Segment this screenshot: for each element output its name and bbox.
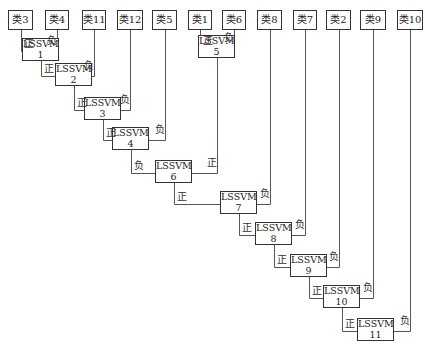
lssvm-number: 6 bbox=[156, 172, 191, 183]
class-node-c6: 类6 bbox=[222, 10, 246, 30]
class-node-c9: 类9 bbox=[360, 10, 386, 30]
positive-label: 正 bbox=[207, 158, 217, 168]
class-node-c5: 类5 bbox=[152, 10, 177, 30]
negative-label: 负 bbox=[224, 33, 234, 43]
negative-label: 负 bbox=[47, 36, 57, 46]
class-node-c10: 类10 bbox=[397, 10, 423, 30]
lssvm-node-6: LSSVM6 bbox=[155, 160, 192, 183]
lssvm-number: 10 bbox=[324, 297, 359, 308]
lssvm-name: LSSVM bbox=[358, 319, 393, 330]
lssvm-name: LSSVM bbox=[156, 161, 191, 172]
class-node-c3: 类3 bbox=[8, 10, 33, 30]
lssvm-name: LSSVM bbox=[324, 286, 359, 297]
lssvm-node-3: LSSVM3 bbox=[84, 97, 121, 120]
positive-label: 正 bbox=[77, 98, 87, 108]
positive-label: 正 bbox=[44, 64, 54, 74]
lssvm-node-4: LSSVM4 bbox=[112, 127, 149, 150]
negative-label: 负 bbox=[120, 95, 130, 105]
lssvm-node-7: LSSVM7 bbox=[220, 191, 257, 214]
class-node-c11: 类11 bbox=[82, 10, 106, 30]
positive-label: 正 bbox=[242, 223, 252, 233]
negative-label: 负 bbox=[295, 220, 305, 230]
lssvm-number: 4 bbox=[113, 139, 148, 150]
lssvm-name: LSSVM bbox=[85, 98, 120, 109]
lssvm-number: 8 bbox=[256, 234, 291, 245]
positive-label: 正 bbox=[203, 36, 213, 46]
class-node-c1: 类1 bbox=[188, 10, 212, 30]
negative-label: 负 bbox=[134, 161, 144, 171]
class-node-c4: 类4 bbox=[45, 10, 69, 30]
negative-label: 负 bbox=[260, 189, 270, 199]
positive-label: 正 bbox=[277, 255, 287, 265]
positive-label: 正 bbox=[345, 319, 355, 329]
class-node-c2: 类2 bbox=[326, 10, 351, 30]
negative-label: 负 bbox=[84, 61, 94, 71]
negative-label: 负 bbox=[400, 316, 410, 326]
lssvm-number: 9 bbox=[291, 266, 326, 277]
positive-label: 正 bbox=[106, 128, 116, 138]
negative-label: 负 bbox=[329, 252, 339, 262]
lssvm-name: LSSVM bbox=[221, 192, 256, 203]
positive-label: 正 bbox=[24, 39, 34, 49]
lssvm-number: 11 bbox=[358, 330, 393, 341]
positive-label: 正 bbox=[177, 192, 187, 202]
negative-label: 负 bbox=[155, 125, 165, 135]
positive-label: 正 bbox=[312, 286, 322, 296]
lssvm-number: 3 bbox=[85, 109, 120, 120]
lssvm-number: 1 bbox=[23, 50, 58, 61]
negative-label: 负 bbox=[363, 283, 373, 293]
lssvm-node-10: LSSVM10 bbox=[323, 285, 360, 308]
class-node-c12: 类12 bbox=[117, 10, 143, 30]
lssvm-number: 7 bbox=[221, 203, 256, 214]
lssvm-node-8: LSSVM8 bbox=[255, 222, 292, 245]
lssvm-name: LSSVM bbox=[113, 128, 148, 139]
lssvm-name: LSSVM bbox=[291, 255, 326, 266]
lssvm-number: 2 bbox=[56, 75, 91, 86]
class-node-c8: 类8 bbox=[257, 10, 282, 30]
lssvm-node-9: LSSVM9 bbox=[290, 254, 327, 277]
lssvm-number: 5 bbox=[199, 47, 234, 58]
lssvm-node-11: LSSVM11 bbox=[357, 318, 394, 341]
lssvm-name: LSSVM bbox=[256, 223, 291, 234]
class-node-c7: 类7 bbox=[293, 10, 317, 30]
